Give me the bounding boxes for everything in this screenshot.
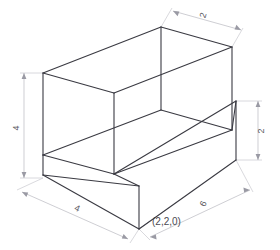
- dim-label-bottom-left-depth: 4: [73, 203, 82, 214]
- arrow-head: [256, 101, 261, 107]
- dimension-left-height: 4: [11, 73, 43, 178]
- dim-line: [22, 192, 128, 239]
- ext-line: [130, 229, 139, 243]
- arrow-head: [22, 172, 27, 178]
- arrow-head: [256, 154, 261, 160]
- dim-line: [150, 190, 250, 237]
- ext-line: [17, 178, 43, 190]
- arrow-head: [173, 11, 179, 16]
- dim-label-bottom-right-length: 6: [198, 199, 209, 208]
- arrow-head: [22, 73, 27, 79]
- coordinate-label: (2,2,0): [152, 216, 181, 227]
- dim-label-right-height: 2: [256, 128, 266, 133]
- face-top-step: [114, 101, 236, 229]
- arrow-head: [22, 192, 28, 197]
- isometric-drawing: 4 2 2 6: [0, 0, 280, 250]
- drawing-canvas: 4 2 2 6: [0, 0, 280, 250]
- ext-line: [236, 160, 253, 192]
- ext-line: [139, 229, 150, 240]
- dimension-right-height: 2: [236, 101, 266, 160]
- ext-line: [161, 8, 172, 27]
- dim-label-top-depth: 2: [198, 11, 209, 19]
- dim-label-left-height: 4: [11, 125, 21, 130]
- arrow-head: [235, 25, 241, 30]
- ext-line: [232, 28, 243, 47]
- arrow-head: [122, 234, 128, 239]
